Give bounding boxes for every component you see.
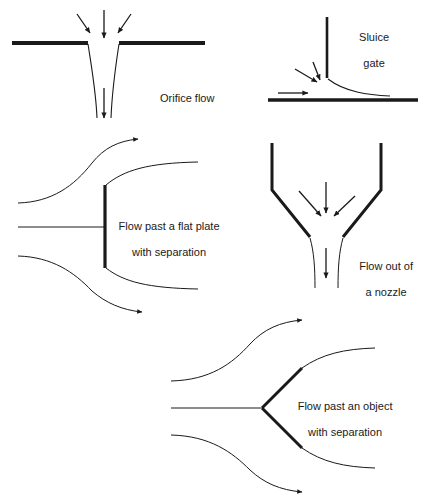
nozzle-wall-left (272, 143, 310, 237)
label-sluice-gate: Sluice gate (340, 18, 402, 70)
flat-plate-streamline-lower-inner (106, 268, 198, 289)
label-object-line1: Flow past an object (298, 400, 393, 412)
object-streamline-upper-inner (302, 348, 375, 368)
object-streamline-lower-inner (302, 448, 375, 468)
orifice-inflow-arrow-left (77, 14, 90, 33)
orifice-inflow-arrow-right (118, 14, 131, 33)
label-nozzle-line2: a nozzle (366, 286, 407, 298)
nozzle-inflow-arrow-right (334, 196, 355, 216)
sluice-free-surface (328, 79, 390, 96)
object-streamline-lower-outer (171, 435, 302, 492)
label-orifice-flow: Orifice flow (160, 92, 214, 105)
label-nozzle-line1: Flow out of (359, 260, 413, 272)
flat-plate-streamline-upper-inner (106, 162, 198, 185)
orifice-jet-right (111, 44, 119, 118)
object-streamline-upper-outer (171, 320, 302, 381)
label-flat-plate-line1: Flow past a flat plate (119, 220, 220, 232)
flat-plate-streamline-lower-outer (18, 256, 142, 312)
nozzle-inflow-arrow-left (299, 191, 321, 216)
orifice-jet-left (88, 44, 97, 118)
flat-plate-streamline-upper-outer (18, 139, 138, 203)
label-sluice-gate-line1: Sluice (359, 31, 389, 43)
label-sluice-gate-line2: gate (363, 57, 384, 69)
nozzle-jet-right (338, 238, 343, 288)
label-object-line2: with separation (308, 426, 382, 438)
sluice-inflow-arrow-upper (313, 62, 320, 80)
nozzle-jet-left (310, 238, 315, 288)
label-flat-plate-line2: with separation (132, 246, 206, 258)
label-object: Flow past an object with separation (282, 387, 402, 439)
label-flat-plate: Flow past a flat plate with separation (110, 207, 222, 259)
label-nozzle: Flow out of a nozzle (348, 247, 418, 299)
sluice-inflow-arrow-middle (295, 69, 317, 82)
nozzle-wall-right (343, 143, 381, 237)
